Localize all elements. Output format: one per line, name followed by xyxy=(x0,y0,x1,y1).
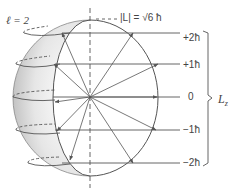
lz-brace xyxy=(203,31,212,166)
m-level-label-plus2: +2ħ xyxy=(183,33,200,43)
magnitude-label: |L| = √6 ħ xyxy=(120,13,162,23)
lz-sub: z xyxy=(225,99,228,108)
quantum-number-label: ℓ = 2 xyxy=(6,15,29,26)
m-level-label-plus1: +1ħ xyxy=(183,60,200,70)
lz-axis-label: Lz xyxy=(218,93,228,108)
m-level-lines xyxy=(53,33,180,163)
lz-main: L xyxy=(218,92,225,106)
sphere-shell xyxy=(13,20,90,176)
angular-momentum-diagram xyxy=(0,0,242,191)
angular-momentum-vectors xyxy=(54,33,158,163)
sphere-cross-section xyxy=(53,20,158,176)
m-level-label-minus1: −1ħ xyxy=(183,125,200,135)
m-level-label-minus2: −2ħ xyxy=(183,158,200,168)
m-level-label-zero: 0 xyxy=(188,92,194,102)
